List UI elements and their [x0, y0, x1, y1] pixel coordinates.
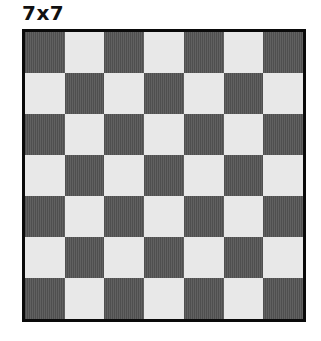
board-square[interactable] [25, 237, 65, 278]
board-square[interactable] [25, 32, 65, 73]
board-square[interactable] [144, 32, 184, 73]
board-square[interactable] [224, 155, 264, 196]
board-square[interactable] [65, 114, 105, 155]
board-square[interactable] [25, 196, 65, 237]
board-square[interactable] [65, 237, 105, 278]
board-square[interactable] [184, 278, 224, 319]
board-square[interactable] [263, 114, 303, 155]
board-square[interactable] [104, 32, 144, 73]
board-square[interactable] [224, 32, 264, 73]
board-square[interactable] [224, 196, 264, 237]
board-square[interactable] [184, 32, 224, 73]
board-square[interactable] [263, 155, 303, 196]
checkerboard[interactable] [22, 29, 306, 322]
board-square[interactable] [184, 114, 224, 155]
board-square[interactable] [184, 196, 224, 237]
board-square[interactable] [65, 32, 105, 73]
board-square[interactable] [25, 114, 65, 155]
board-square[interactable] [104, 278, 144, 319]
board-title: 7x7 [22, 1, 64, 25]
board-square[interactable] [104, 237, 144, 278]
board-square[interactable] [263, 32, 303, 73]
board-square[interactable] [184, 237, 224, 278]
board-square[interactable] [263, 278, 303, 319]
board-square[interactable] [104, 196, 144, 237]
board-square[interactable] [144, 114, 184, 155]
board-square[interactable] [104, 114, 144, 155]
board-square[interactable] [184, 73, 224, 114]
board-square[interactable] [263, 73, 303, 114]
board-square[interactable] [144, 237, 184, 278]
board-square[interactable] [65, 278, 105, 319]
board-square[interactable] [144, 155, 184, 196]
board-square[interactable] [184, 155, 224, 196]
board-square[interactable] [25, 278, 65, 319]
board-square[interactable] [263, 237, 303, 278]
board-square[interactable] [224, 73, 264, 114]
board-square[interactable] [25, 73, 65, 114]
board-square[interactable] [224, 114, 264, 155]
board-square[interactable] [224, 278, 264, 319]
board-square[interactable] [224, 237, 264, 278]
board-square[interactable] [144, 73, 184, 114]
board-square[interactable] [65, 155, 105, 196]
board-square[interactable] [104, 155, 144, 196]
board-square[interactable] [65, 73, 105, 114]
board-square[interactable] [104, 73, 144, 114]
board-square[interactable] [144, 196, 184, 237]
board-square[interactable] [25, 155, 65, 196]
board-square[interactable] [144, 278, 184, 319]
board-square[interactable] [65, 196, 105, 237]
board-square[interactable] [263, 196, 303, 237]
